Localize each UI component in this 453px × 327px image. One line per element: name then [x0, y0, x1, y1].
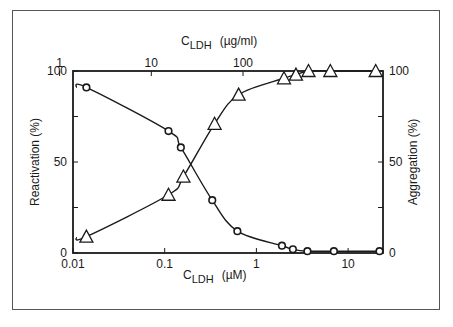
x2-tick-label: 100	[233, 56, 253, 70]
aggregation-curve	[76, 71, 376, 240]
x-tick-label: 1	[253, 257, 260, 271]
circle-marker	[304, 248, 311, 255]
circle-marker	[178, 144, 185, 151]
triangle-marker	[208, 117, 221, 129]
plot-box	[73, 71, 383, 253]
triangle-marker	[278, 72, 291, 84]
y-tick-label: 100	[47, 64, 67, 78]
triangle-marker	[80, 230, 93, 242]
triangle-marker	[162, 188, 175, 200]
triangle-marker	[177, 170, 190, 182]
chart: 0.010.1110110100050100050100CLDH(µM)CLDH…	[0, 0, 453, 327]
circle-marker	[234, 228, 241, 235]
circle-marker	[165, 128, 172, 135]
y2-axis-title: Aggregation (%)	[406, 119, 420, 206]
triangle-marker	[289, 68, 302, 80]
x-tick-label: 10	[341, 257, 355, 271]
circle-marker	[83, 84, 90, 91]
y2-tick-label: 50	[389, 155, 403, 169]
y2-tick-label: 0	[389, 246, 396, 260]
y2-tick-label: 100	[389, 64, 409, 78]
x-tick-label: 0.1	[156, 257, 173, 271]
fit-curves	[76, 71, 380, 252]
circle-marker	[209, 197, 216, 204]
y-tick-label: 50	[54, 155, 68, 169]
x2-axis-title: CLDH(µg/ml)	[181, 34, 257, 51]
triangle-marker	[232, 88, 245, 100]
circle-marker	[290, 246, 297, 253]
x-axis-title: CLDH(µM)	[183, 268, 247, 285]
circle-marker	[279, 242, 286, 249]
circle-marker	[376, 248, 383, 255]
y-tick-label: 0	[60, 246, 67, 260]
circle-marker	[331, 248, 338, 255]
y-axis-title: Reactivation (%)	[28, 118, 42, 206]
reactivation-curve	[76, 84, 380, 251]
x2-tick-label: 10	[145, 56, 159, 70]
